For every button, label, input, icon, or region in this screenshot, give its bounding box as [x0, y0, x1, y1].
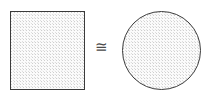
congruent-to-symbol: ≅	[90, 34, 112, 60]
math-figure: ≅	[0, 0, 207, 95]
square-shape	[10, 11, 85, 90]
circle-shape	[122, 11, 201, 90]
